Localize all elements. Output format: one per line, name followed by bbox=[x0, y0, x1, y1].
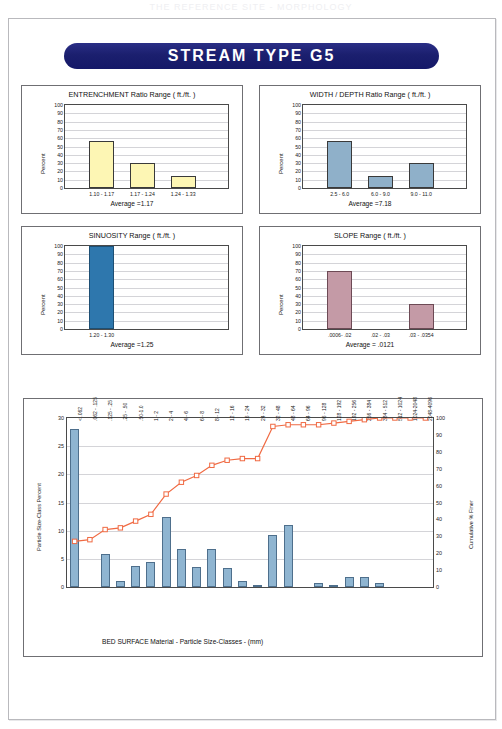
bar bbox=[130, 163, 155, 188]
panel-sinuosity-ylabel: Percent bbox=[40, 294, 46, 315]
bar bbox=[327, 271, 352, 329]
gridline bbox=[303, 122, 466, 123]
y-axis-tick-right: 80 bbox=[436, 449, 442, 455]
gridline bbox=[65, 113, 228, 114]
y-axis-tick: 30 bbox=[295, 301, 301, 307]
y-axis-tick: 0 bbox=[60, 326, 63, 332]
y-axis-tick: 80 bbox=[295, 260, 301, 266]
y-axis-tick: 30 bbox=[57, 301, 63, 307]
y-axis-tick: 50 bbox=[295, 144, 301, 150]
y-axis-tick: 10 bbox=[57, 177, 63, 183]
x-axis-tick: 1.17 - 1.24 bbox=[130, 191, 155, 197]
x-axis-tick: 1.20 - 1.30 bbox=[89, 332, 114, 338]
panel-width-depth-title: WIDTH / DEPTH Ratio Range ( ft./ft. ) bbox=[260, 90, 480, 99]
panel-sinuosity: SINUOSITY Range ( ft./ft. ) 010203040506… bbox=[21, 226, 243, 355]
gridline bbox=[303, 263, 466, 264]
y-axis-tick: 100 bbox=[54, 243, 63, 249]
y-axis-tick: 40 bbox=[57, 293, 63, 299]
y-axis-tick: 60 bbox=[57, 135, 63, 141]
y-axis-tick: 100 bbox=[54, 102, 63, 108]
y-axis-tick: 20 bbox=[57, 168, 63, 174]
banner-title: STREAM TYPE G5 bbox=[168, 47, 336, 65]
gridline bbox=[303, 254, 466, 255]
gridline bbox=[303, 130, 466, 131]
y-axis-tick-right: 20 bbox=[436, 550, 442, 556]
y-axis-tick: 20 bbox=[57, 309, 63, 315]
gridline bbox=[65, 130, 228, 131]
y-axis-tick-right: 90 bbox=[436, 432, 442, 438]
y-axis-tick: 70 bbox=[295, 127, 301, 133]
bed-surface-plot: 0510152025300102030405060708090100< .062… bbox=[66, 417, 434, 588]
y-axis-tick: 90 bbox=[295, 110, 301, 116]
y-axis-tick: 20 bbox=[295, 168, 301, 174]
x-axis-tick: 6.0 - 9.0 bbox=[371, 191, 390, 197]
panel-entrenchment-plot: 01020304050607080901001.10 - 1.171.17 - … bbox=[64, 104, 229, 189]
y-axis-tick-right: 30 bbox=[436, 533, 442, 539]
y-axis-tick: 0 bbox=[60, 185, 63, 191]
y-axis-tick-right: 100 bbox=[436, 415, 445, 421]
banner-pill: STREAM TYPE G5 bbox=[64, 43, 439, 69]
bar bbox=[171, 176, 196, 188]
panel-sinuosity-title: SINUOSITY Range ( ft./ft. ) bbox=[22, 231, 242, 240]
bed-surface-ylabel-left: Particle Size-Class Percent bbox=[36, 483, 42, 551]
panel-width-depth-plot: 01020304050607080901002.5 - 6.06.0 - 9.0… bbox=[302, 104, 467, 189]
y-axis-tick-right: 40 bbox=[436, 516, 442, 522]
y-axis-tick: 70 bbox=[57, 268, 63, 274]
bar bbox=[409, 163, 434, 188]
y-axis-tick: 70 bbox=[57, 127, 63, 133]
y-axis-tick-left: 5 bbox=[61, 556, 64, 562]
y-axis-tick: 20 bbox=[295, 309, 301, 315]
y-axis-tick: 80 bbox=[295, 119, 301, 125]
y-axis-tick-right: 50 bbox=[436, 500, 442, 506]
y-axis-tick: 90 bbox=[57, 251, 63, 257]
y-axis-tick: 100 bbox=[292, 102, 301, 108]
y-axis-tick: 40 bbox=[295, 293, 301, 299]
y-axis-tick: 40 bbox=[57, 152, 63, 158]
y-axis-tick: 60 bbox=[57, 276, 63, 282]
gridline bbox=[65, 122, 228, 123]
panel-bed-surface: 0510152025300102030405060708090100< .062… bbox=[23, 398, 483, 657]
x-axis-tick: 2.5 - 6.0 bbox=[330, 191, 349, 197]
y-axis-tick: 80 bbox=[57, 119, 63, 125]
y-axis-tick: 60 bbox=[295, 135, 301, 141]
panel-slope-average: Average = .0121 bbox=[260, 341, 480, 348]
y-axis-tick-left: 0 bbox=[61, 584, 64, 590]
y-axis-tick-right: 60 bbox=[436, 483, 442, 489]
panel-slope-title: SLOPE Range ( ft./ft. ) bbox=[260, 231, 480, 240]
y-axis-tick: 10 bbox=[295, 177, 301, 183]
y-axis-tick: 30 bbox=[295, 160, 301, 166]
gridline bbox=[65, 138, 228, 139]
y-axis-tick: 80 bbox=[57, 260, 63, 266]
y-axis-tick: 100 bbox=[292, 243, 301, 249]
bar bbox=[327, 141, 352, 188]
x-axis-tick: 9.0 - 11.0 bbox=[410, 191, 432, 197]
panel-entrenchment: ENTRENCHMENT Ratio Range ( ft./ft. ) 010… bbox=[21, 85, 243, 214]
stream-type-banner: STREAM TYPE G5 bbox=[64, 43, 439, 69]
panel-width-depth-ylabel: Percent bbox=[278, 153, 284, 174]
panel-entrenchment-ylabel: Percent bbox=[40, 153, 46, 174]
x-axis-tick: .0006- .02 bbox=[328, 332, 351, 338]
y-axis-tick: 10 bbox=[295, 318, 301, 324]
panel-slope: SLOPE Range ( ft./ft. ) 0102030405060708… bbox=[259, 226, 481, 355]
y-axis-tick: 40 bbox=[295, 152, 301, 158]
y-axis-tick: 70 bbox=[295, 268, 301, 274]
page-sheet: STREAM TYPE G5 ENTRENCHMENT Ratio Range … bbox=[8, 18, 496, 720]
panel-sinuosity-average: Average =1.25 bbox=[22, 341, 242, 348]
bed-surface-xtitle: BED SURFACE Material - Particle Size-Cla… bbox=[102, 638, 263, 645]
y-axis-tick: 60 bbox=[295, 276, 301, 282]
bar bbox=[89, 246, 114, 329]
y-axis-tick-left: 20 bbox=[58, 471, 64, 477]
y-axis-tick: 0 bbox=[298, 326, 301, 332]
y-axis-tick-right: 10 bbox=[436, 567, 442, 573]
x-axis-tick: 1.10 - 1.17 bbox=[89, 191, 114, 197]
bar bbox=[409, 304, 434, 329]
bar bbox=[89, 141, 114, 188]
x-axis-tick: 1.24 - 1.33 bbox=[171, 191, 196, 197]
y-axis-tick: 90 bbox=[57, 110, 63, 116]
page-header-faint-text: THE REFERENCE SITE - MORPHOLOGY bbox=[0, 0, 502, 14]
bed-surface-ylabel-right: Cumulative % Finer bbox=[468, 500, 474, 549]
panel-entrenchment-average: Average =1.17 bbox=[22, 200, 242, 207]
y-axis-tick-left: 30 bbox=[58, 415, 64, 421]
y-axis-tick-left: 15 bbox=[58, 500, 64, 506]
y-axis-tick-right: 0 bbox=[436, 584, 439, 590]
